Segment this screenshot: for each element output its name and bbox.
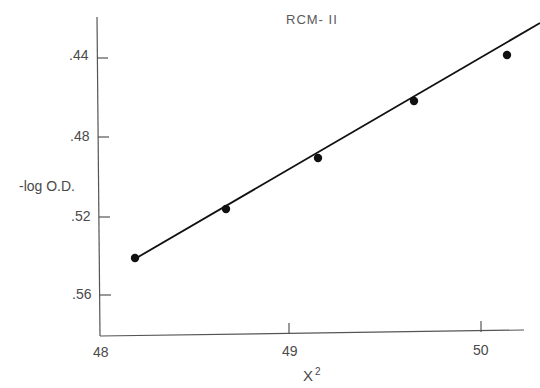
x-axis-label-base: X [303,367,313,384]
x-axis-label: X2 [303,367,321,383]
y-tick-label-52: .52 [71,209,90,223]
data-point [503,51,511,59]
y-tick-label-56: .56 [72,287,91,301]
x-axis [100,330,524,336]
y-tick-label-48: .48 [70,129,89,143]
fit-line [133,23,540,260]
data-point [131,254,139,262]
x-axis-label-superscript: 2 [315,366,321,377]
data-point [410,97,418,105]
y-tick-label-44: .44 [69,48,88,62]
data-point [314,154,322,162]
chart-title: RCM- II [286,12,338,27]
data-point [222,205,230,213]
x-tick-label-50: 50 [473,343,489,357]
x-tick-label-48: 48 [93,345,109,359]
y-axis [97,17,100,336]
x-tick-label-49: 49 [282,344,298,358]
y-axis-label: -log O.D. [19,179,75,193]
